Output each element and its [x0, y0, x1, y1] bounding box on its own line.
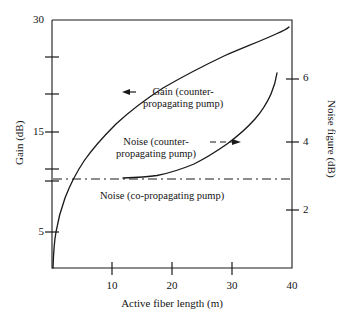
gain-annotation-arrow: [122, 89, 139, 95]
xtick-label-10: 10: [96, 280, 128, 291]
x-axis-title: Active fiber length (m): [112, 297, 232, 309]
gain-annotation-line2: propagating pump): [143, 98, 223, 110]
noise-counter-annotation-arrow: [210, 139, 241, 145]
gain-annotation: Gain (counter- propagating pump): [143, 86, 223, 110]
y-axis-title: Gain (dB): [13, 121, 25, 165]
chart-figure: 30 15 5 6 4 2 10 20 30 40 Gain (dB) Nois…: [0, 0, 343, 319]
noise-co-annotation: Noise (co-propagating pump): [100, 190, 224, 202]
y2tick-label-4: 4: [303, 136, 327, 147]
y2tick-label-2: 2: [303, 204, 327, 215]
noise-counter-annotation: Noise (counter- propagating pump): [104, 136, 208, 160]
gain-annotation-line1: Gain (counter-: [143, 86, 223, 98]
xtick-label-20: 20: [156, 280, 188, 291]
ytick-label-5: 5: [14, 226, 44, 237]
noise-counter-annotation-line1: Noise (counter-: [104, 136, 208, 148]
xtick-label-40: 40: [276, 280, 308, 291]
xtick-label-30: 30: [216, 280, 248, 291]
ytick-label-30: 30: [14, 14, 44, 25]
y2-axis-title: Noise figure (dB): [326, 100, 338, 178]
noise-counter-annotation-line2: propagating pump): [104, 148, 208, 160]
y2tick-label-6: 6: [303, 72, 327, 83]
